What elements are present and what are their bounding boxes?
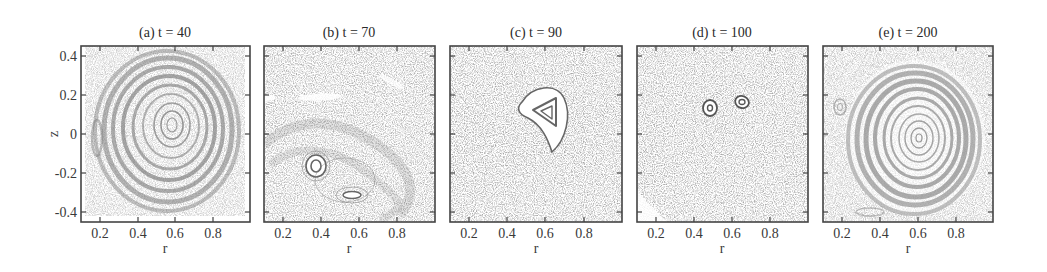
x-axis: 0.2 0.4 0.6 0.8 r xyxy=(460,226,593,256)
x-tick-label: 0.2 xyxy=(833,226,851,241)
x-tick-label: 0.8 xyxy=(761,226,779,241)
x-tick-label: 0.8 xyxy=(204,226,222,241)
poincare-plot xyxy=(438,46,622,230)
x-axis: 0.2 0.4 0.6 0.8 r xyxy=(274,226,406,256)
x-tick-label: 0.8 xyxy=(947,226,965,241)
panel-a: (a) t = 40 xyxy=(46,25,250,256)
x-tick-label: 0.8 xyxy=(575,226,593,241)
panel-title: (d) t = 100 xyxy=(692,25,752,41)
poincare-plot xyxy=(823,46,993,222)
x-axis: 0.2 0.4 0.6 0.8 r xyxy=(647,226,779,256)
x-axis-label: r xyxy=(163,241,168,256)
x-axis-label: r xyxy=(534,241,539,256)
x-tick-label: 0.6 xyxy=(166,226,184,241)
figure: (a) t = 40 xyxy=(0,0,1047,272)
poincare-plot xyxy=(252,46,435,222)
x-axis-label: r xyxy=(906,241,911,256)
x-tick-label: 0.4 xyxy=(312,226,330,241)
y-tick-label: -0.2 xyxy=(55,166,77,181)
x-tick-label: 0.2 xyxy=(460,226,478,241)
panel-title: (b) t = 70 xyxy=(323,25,376,41)
x-tick-label: 0.2 xyxy=(91,226,109,241)
x-axis-label: r xyxy=(720,241,725,256)
panel-c: (c) t = 90 0.2 0. xyxy=(438,25,622,256)
panel-e: (e) t = 200 xyxy=(823,25,993,256)
x-axis-label: r xyxy=(347,241,352,256)
y-axis: 0.4 0.2 0 -0.2 -0.4 z xyxy=(46,49,77,220)
x-axis: 0.2 0.4 0.6 0.8 r xyxy=(91,226,222,256)
panel-b: (b) t = 70 xyxy=(252,25,435,256)
y-axis-label: z xyxy=(46,131,61,137)
x-tick-label: 0.4 xyxy=(129,226,147,241)
x-tick-label: 0.4 xyxy=(871,226,889,241)
x-tick-label: 0.4 xyxy=(685,226,703,241)
x-tick-label: 0.6 xyxy=(350,226,368,241)
y-tick-label: 0.2 xyxy=(60,88,78,103)
y-tick-label: 0.4 xyxy=(60,49,78,64)
x-tick-label: 0.6 xyxy=(536,226,554,241)
x-tick-label: 0.2 xyxy=(274,226,292,241)
panel-title: (c) t = 90 xyxy=(510,25,562,41)
panel-d: (d) t = 100 xyxy=(637,25,808,256)
x-tick-label: 0.6 xyxy=(723,226,741,241)
x-tick-label: 0.4 xyxy=(498,226,516,241)
poincare-plot xyxy=(637,46,808,222)
x-tick-label: 0.8 xyxy=(388,226,406,241)
y-tick-label: -0.4 xyxy=(55,205,77,220)
y-tick-label: 0 xyxy=(70,127,77,142)
panel-title: (a) t = 40 xyxy=(139,25,191,41)
x-tick-label: 0.6 xyxy=(909,226,927,241)
x-axis: 0.2 0.4 0.6 0.8 r xyxy=(833,226,965,256)
panel-title: (e) t = 200 xyxy=(879,25,938,41)
x-tick-label: 0.2 xyxy=(647,226,665,241)
poincare-plot xyxy=(81,44,250,222)
